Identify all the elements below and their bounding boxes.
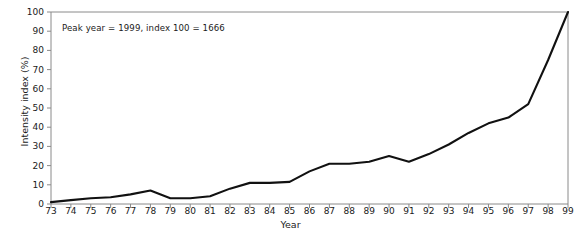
chart-container: 0102030405060708090100 73747576777879808… <box>0 0 581 235</box>
x-tick-label: 91 <box>399 207 419 216</box>
y-tick-marks <box>47 12 51 204</box>
x-tick-label: 74 <box>61 207 81 216</box>
x-tick-label: 97 <box>518 207 538 216</box>
x-tick-label: 80 <box>180 207 200 216</box>
x-tick-label: 99 <box>558 207 578 216</box>
x-tick-label: 77 <box>121 207 141 216</box>
x-tick-label: 79 <box>160 207 180 216</box>
chart-annotation: Peak year = 1999, index 100 = 1666 <box>62 23 225 33</box>
x-tick-label: 88 <box>339 207 359 216</box>
y-axis-title: Intensity index (%) <box>19 32 30 172</box>
x-tick-label: 96 <box>498 207 518 216</box>
axis-lines <box>51 12 568 204</box>
y-tick-label: 100 <box>18 8 44 17</box>
x-tick-label: 87 <box>319 207 339 216</box>
x-tick-label: 82 <box>220 207 240 216</box>
x-tick-label: 76 <box>101 207 121 216</box>
x-tick-label: 92 <box>419 207 439 216</box>
x-tick-label: 98 <box>538 207 558 216</box>
x-axis-title: Year <box>0 219 581 230</box>
x-tick-label: 84 <box>260 207 280 216</box>
x-tick-label: 89 <box>359 207 379 216</box>
x-tick-label: 86 <box>300 207 320 216</box>
x-tick-label: 94 <box>459 207 479 216</box>
data-series-line <box>51 12 568 202</box>
x-tick-label: 85 <box>280 207 300 216</box>
x-tick-label: 90 <box>379 207 399 216</box>
y-tick-label: 10 <box>18 181 44 190</box>
x-tick-label: 78 <box>140 207 160 216</box>
chart-plot-area <box>0 0 581 235</box>
x-tick-label: 95 <box>478 207 498 216</box>
x-tick-label: 83 <box>240 207 260 216</box>
x-tick-label: 75 <box>81 207 101 216</box>
x-tick-label: 81 <box>200 207 220 216</box>
x-tick-label: 73 <box>41 207 61 216</box>
x-tick-label: 93 <box>439 207 459 216</box>
